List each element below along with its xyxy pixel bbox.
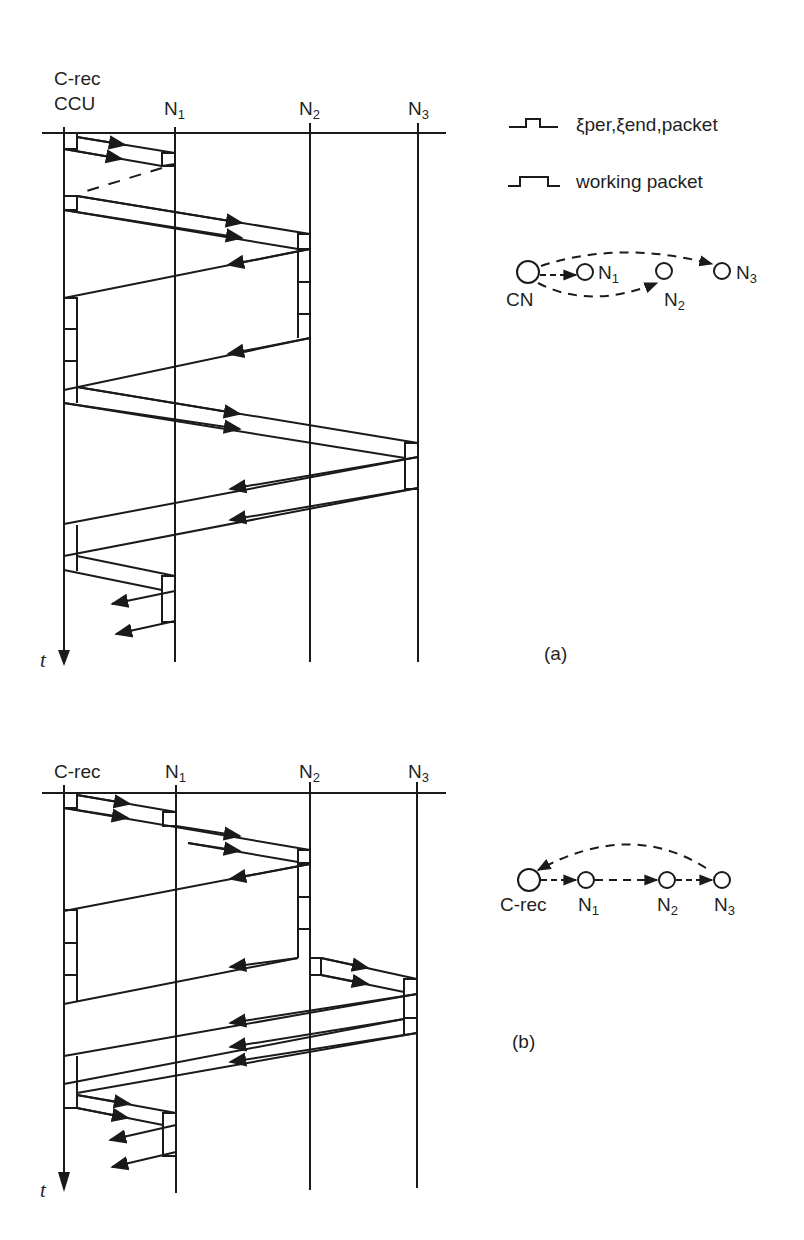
legend-item-small-packet: ξper,ξend,packet [576, 114, 718, 136]
panel-b-label: (b) [512, 1032, 535, 1051]
n3-node-icon [714, 263, 730, 279]
time-axis-label: t [40, 650, 46, 671]
legend [508, 119, 560, 186]
graph-node-c-rec-label: C-rec [500, 895, 546, 914]
col-label-n3: N3 [408, 762, 429, 784]
graph-node-n1-label: N1 [598, 263, 619, 285]
panel-b-timing-diagram [42, 782, 446, 1193]
col-label-n1: N1 [164, 99, 185, 121]
n1-node-icon [578, 872, 594, 888]
graph-node-n2-label: N2 [657, 895, 678, 917]
col-label-ccu: CCU [54, 94, 95, 113]
col-label-c-rec: C-rec [54, 69, 100, 88]
n3-node-icon [714, 872, 730, 888]
cn-node-icon [517, 261, 539, 283]
wide-packet-symbol-icon [508, 177, 560, 186]
n2-node-icon [659, 872, 675, 888]
col-label-c-rec: C-rec [54, 762, 100, 781]
small-packet-symbol-icon [509, 119, 558, 127]
panel-a-node-graph [517, 252, 730, 296]
graph-node-n3-label: N3 [736, 263, 757, 285]
col-label-n2: N2 [299, 99, 320, 121]
panel-a-timing-diagram [42, 123, 446, 666]
time-arrow-icon [58, 650, 70, 666]
time-axis-label: t [40, 1180, 46, 1201]
panel-a-label: (a) [544, 644, 567, 663]
graph-node-n2-label: N2 [664, 290, 685, 312]
panel-b-node-graph [518, 844, 730, 891]
col-label-n1: N1 [165, 762, 186, 784]
col-label-n2: N2 [299, 762, 320, 784]
col-label-n3: N3 [408, 99, 429, 121]
n2-node-icon [656, 263, 672, 279]
graph-node-cn-label: CN [506, 290, 533, 309]
graph-node-n3-label: N3 [714, 895, 735, 917]
legend-item-working-packet: working packet [576, 171, 703, 193]
c-rec-node-icon [518, 869, 540, 891]
time-arrow-icon [58, 1172, 70, 1192]
graph-node-n1-label: N1 [578, 895, 599, 917]
n1-node-icon [577, 264, 593, 280]
